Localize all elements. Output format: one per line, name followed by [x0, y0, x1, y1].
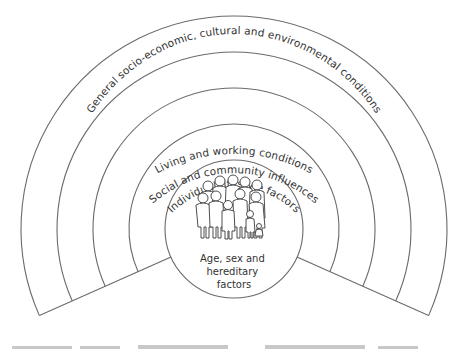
cropped-caption-fragments [12, 345, 418, 349]
determinants-of-health-diagram: General socio-economic, cultural and env… [0, 0, 462, 349]
core-label-line-2: hereditary [207, 266, 259, 277]
core-label-line-1: Age, sex and [200, 253, 265, 264]
core-label: Age, sex and hereditary factors [200, 253, 268, 290]
layer-label-general: General socio-economic, cultural and env… [84, 24, 385, 115]
group-of-people-icon [196, 175, 265, 239]
core-label-line-3: factors [217, 279, 252, 290]
radial-line-left [39, 257, 171, 316]
radial-line-right [297, 257, 429, 316]
